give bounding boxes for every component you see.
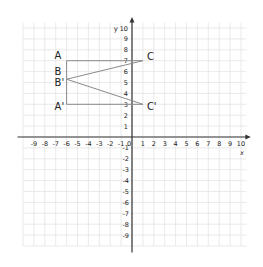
y-tick-label: -4 — [123, 177, 129, 185]
x-tick-label: 10 — [237, 140, 245, 148]
tick-labels: -9-8-7-6-5-4-3-2-10123456789101234567891… — [31, 25, 245, 240]
x-tick-label: 3 — [163, 140, 167, 148]
x-tick-label: -9 — [31, 140, 37, 148]
y-axis-label: y — [114, 25, 118, 33]
x-tick-label: -3 — [96, 140, 102, 148]
x-axis-label: x — [239, 149, 244, 157]
y-tick-label: 1 — [124, 123, 128, 131]
y-tick-label: 2 — [124, 112, 128, 120]
coordinate-plane-svg: -9-8-7-6-5-4-3-2-10123456789101234567891… — [0, 0, 263, 267]
x-tick-label: 6 — [195, 140, 199, 148]
point-label-B: B — [55, 66, 62, 77]
point-label-C-prime: C' — [147, 101, 157, 112]
y-tick-label: 10 — [120, 25, 128, 33]
y-tick-label: -3 — [123, 166, 129, 174]
axes — [18, 17, 251, 252]
y-tick-label: 6 — [124, 68, 128, 76]
x-tick-label: -4 — [85, 140, 91, 148]
x-tick-label: 8 — [217, 140, 221, 148]
x-tick-label: -7 — [52, 140, 58, 148]
x-axis-arrow-icon — [245, 135, 250, 140]
point-label-B-prime: B' — [55, 77, 65, 88]
y-tick-label: 5 — [124, 79, 128, 87]
x-tick-label: -6 — [63, 140, 69, 148]
y-tick-label: -2 — [123, 155, 129, 163]
y-tick-label: -1 — [123, 144, 129, 152]
coordinate-plane-diagram: -9-8-7-6-5-4-3-2-10123456789101234567891… — [0, 0, 263, 267]
x-tick-label: -2 — [107, 140, 113, 148]
y-tick-label: -8 — [123, 221, 129, 229]
x-tick-label: -5 — [74, 140, 80, 148]
x-tick-label: -8 — [42, 140, 48, 148]
point-label-C: C — [147, 51, 154, 62]
y-tick-label: -6 — [123, 199, 129, 207]
y-tick-label: 8 — [124, 46, 128, 54]
x-tick-label: 7 — [206, 140, 210, 148]
point-label-A-prime: A' — [55, 101, 65, 112]
y-tick-label: 4 — [124, 90, 128, 98]
y-axis-arrow-icon — [130, 17, 135, 22]
point-labels: ABCA'B'C' — [55, 50, 157, 113]
y-tick-label: 9 — [124, 35, 128, 43]
x-tick-label: 2 — [152, 140, 156, 148]
y-tick-label: -7 — [123, 210, 129, 218]
point-label-A: A — [55, 50, 62, 61]
x-tick-label: 1 — [141, 140, 145, 148]
y-tick-label: -9 — [123, 232, 129, 240]
x-tick-label: 5 — [184, 140, 188, 148]
x-tick-label: 9 — [228, 140, 232, 148]
x-tick-label: 4 — [174, 140, 178, 148]
y-tick-label: -5 — [123, 188, 129, 196]
